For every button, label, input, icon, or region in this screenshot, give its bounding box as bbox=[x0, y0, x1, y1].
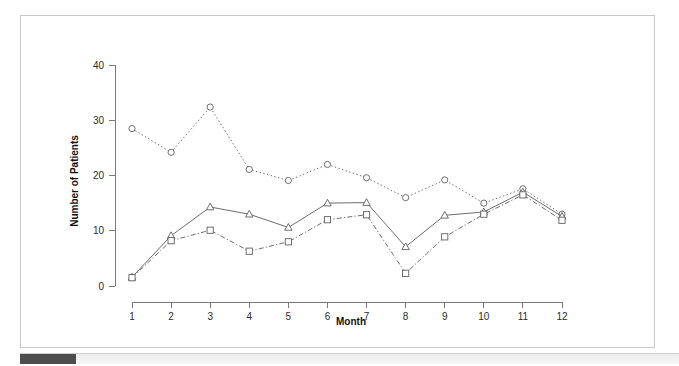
y-axis: 010203040 bbox=[93, 60, 115, 292]
data-point-circle bbox=[285, 177, 291, 183]
data-point-square bbox=[324, 217, 330, 223]
data-point-circle bbox=[363, 175, 369, 181]
y-tick-label: 20 bbox=[93, 170, 105, 181]
document-page: 010203040 123456789101112 Month Number o… bbox=[20, 15, 655, 348]
x-tick-label: 5 bbox=[286, 311, 292, 322]
data-point-square bbox=[559, 217, 565, 223]
data-point-circle bbox=[246, 166, 252, 172]
data-point-square bbox=[129, 275, 135, 281]
data-point-circle bbox=[442, 177, 448, 183]
x-axis-title: Month bbox=[336, 316, 366, 327]
data-point-square bbox=[442, 234, 448, 240]
line-chart: 010203040 123456789101112 Month Number o… bbox=[21, 16, 656, 349]
x-tick-label: 4 bbox=[246, 311, 252, 322]
data-point-square bbox=[168, 238, 174, 244]
data-point-square bbox=[207, 227, 213, 233]
x-tick-label: 9 bbox=[442, 311, 448, 322]
series-line-triangle bbox=[132, 192, 562, 277]
series-line-square bbox=[132, 195, 562, 278]
data-point-circle bbox=[481, 200, 487, 206]
series-circle bbox=[129, 104, 565, 217]
x-tick-label: 11 bbox=[518, 311, 529, 322]
screenshot-root: 010203040 123456789101112 Month Number o… bbox=[0, 0, 679, 366]
y-tick-label: 0 bbox=[98, 281, 104, 292]
x-tick-label: 10 bbox=[478, 311, 490, 322]
y-tick-label: 10 bbox=[93, 225, 105, 236]
y-tick-label: 30 bbox=[93, 115, 105, 126]
data-point-circle bbox=[324, 161, 330, 167]
x-tick-label: 3 bbox=[207, 311, 213, 322]
y-axis-title: Number of Patients bbox=[69, 135, 80, 227]
x-tick-label: 8 bbox=[403, 311, 409, 322]
data-point-square bbox=[246, 248, 252, 254]
scrollbar-track[interactable] bbox=[76, 354, 679, 364]
chart-figure: 010203040 123456789101112 Month Number o… bbox=[21, 16, 656, 349]
data-point-circle bbox=[129, 125, 135, 131]
data-point-square bbox=[363, 212, 369, 218]
data-point-triangle bbox=[206, 203, 213, 210]
data-point-square bbox=[403, 270, 409, 276]
x-tick-label: 6 bbox=[325, 311, 331, 322]
series-square bbox=[129, 192, 565, 281]
data-point-circle bbox=[168, 149, 174, 155]
y-tick-label: 40 bbox=[93, 60, 105, 71]
data-point-square bbox=[520, 192, 526, 198]
x-tick-label: 1 bbox=[129, 311, 135, 322]
horizontal-scrollbar[interactable] bbox=[20, 353, 679, 364]
x-tick-label: 2 bbox=[168, 311, 174, 322]
data-point-square bbox=[285, 239, 291, 245]
x-tick-label: 12 bbox=[556, 311, 568, 322]
data-point-triangle bbox=[324, 199, 331, 206]
scrollbar-thumb[interactable] bbox=[20, 354, 76, 364]
data-point-square bbox=[481, 211, 487, 217]
series-line-circle bbox=[132, 107, 562, 214]
series-group bbox=[128, 104, 565, 281]
data-point-circle bbox=[207, 104, 213, 110]
data-point-triangle bbox=[363, 199, 370, 206]
data-point-circle bbox=[403, 195, 409, 201]
